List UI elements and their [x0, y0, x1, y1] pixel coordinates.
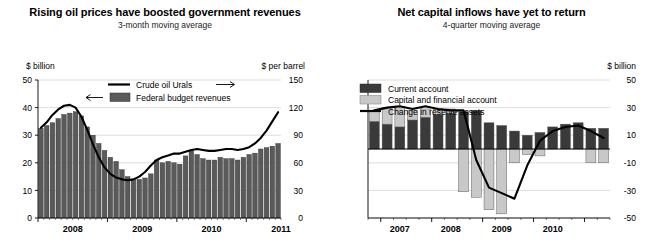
bar: [50, 123, 55, 218]
bar: [270, 146, 275, 218]
bar: [235, 160, 240, 218]
bar-current-account: [459, 112, 469, 149]
legend-label-crude-oil-urals: Crude oil Urals: [136, 80, 192, 90]
right-chart-svg: -50-30-10103050$ billion2007200820092010…: [330, 32, 653, 246]
bar-current-account: [510, 131, 520, 149]
bar: [218, 157, 223, 218]
bar: [160, 163, 165, 218]
bar-current-account: [484, 123, 494, 149]
x-tick-label: 2008: [63, 224, 83, 234]
right-chart-legend: Current accountCapital and financial acc…: [360, 84, 497, 117]
chart-panel-left: Rising oil prices have boosted governmen…: [0, 0, 330, 246]
y-tick-label-left: 30: [23, 130, 33, 140]
bar-capital-financial-account: [497, 149, 507, 214]
y-tick-label-right: 50: [627, 75, 637, 85]
bar-current-account: [420, 117, 430, 149]
x-tick-label: 2009: [132, 224, 152, 234]
y-axis-unit-right: $ billion: [607, 61, 636, 71]
y-tick-label-left: 50: [23, 75, 33, 85]
bar: [114, 161, 119, 218]
right-chart-subtitle: 4-quarter moving average: [330, 20, 653, 30]
legend-label-capital-and-financial-account: Capital and financial account: [388, 95, 497, 105]
bar: [253, 153, 258, 218]
bar-current-account: [408, 120, 418, 149]
y-tick-label-left: 10: [23, 186, 33, 196]
bar: [79, 116, 84, 218]
y-tick-label-left: 0: [27, 213, 32, 223]
legend-label-federal-budget-revenues: Federal budget revenues: [136, 93, 231, 103]
bar: [224, 159, 229, 218]
bar-current-account: [446, 113, 456, 149]
right-plot-group: -50-30-10103050$ billion2007200820092010…: [360, 61, 636, 234]
bar-current-account: [522, 135, 532, 149]
bar-current-account: [433, 115, 443, 150]
y-tick-label-right: -10: [624, 158, 637, 168]
bar: [206, 160, 211, 218]
bar-capital-financial-account: [599, 149, 609, 163]
bar: [85, 127, 90, 218]
bar: [189, 150, 194, 218]
bar: [149, 174, 154, 218]
bar: [137, 179, 142, 218]
bar: [102, 150, 107, 218]
x-tick-label: 2010: [202, 224, 222, 234]
x-tick-label: 2008: [441, 224, 461, 234]
bar: [241, 157, 246, 218]
legend-label-change-in-reserve-assets: Change in reserve assets: [388, 107, 484, 117]
bar: [44, 126, 49, 218]
y-tick-label-right: 150: [289, 75, 303, 85]
bar: [62, 115, 67, 219]
legend-label-current-account: Current account: [388, 84, 449, 94]
bar: [154, 160, 159, 218]
bar: [125, 177, 130, 218]
bar: [108, 157, 113, 218]
bar: [56, 119, 61, 218]
bar-current-account: [395, 127, 405, 149]
bar-capital-financial-account: [510, 149, 520, 163]
left-chart-plot: 010203040500306090120150$ billion$ per b…: [0, 32, 330, 246]
bar: [177, 164, 182, 218]
y-axis-unit-right: $ per barrel: [262, 61, 306, 71]
bar-current-account: [382, 124, 392, 149]
left-chart-subtitle: 3-month moving average: [0, 20, 330, 30]
left-chart-svg: 010203040500306090120150$ billion$ per b…: [0, 32, 330, 246]
bar: [230, 159, 235, 218]
bar-capital-financial-account: [522, 149, 532, 155]
chart-panel-right: Net capital inflows have yet to return 4…: [330, 0, 653, 246]
left-chart-title: Rising oil prices have boosted governmen…: [0, 6, 330, 19]
legend-swatch-current-account: [360, 84, 381, 93]
y-tick-label-right: 30: [627, 103, 637, 113]
y-tick-label-right: 10: [627, 130, 637, 140]
y-tick-label-right: -50: [624, 213, 637, 223]
y-tick-label-left: 20: [23, 158, 33, 168]
bar: [195, 155, 200, 218]
bar: [201, 159, 206, 218]
bar: [39, 128, 44, 218]
x-tick-label: 2011: [271, 224, 291, 234]
bar: [258, 149, 263, 218]
left-plot-group: 010203040500306090120150$ billion$ per b…: [23, 61, 306, 234]
y-tick-label-left: 40: [23, 103, 33, 113]
bar-capital-financial-account: [459, 149, 469, 192]
bar: [166, 161, 171, 218]
x-tick-label: 2009: [492, 224, 512, 234]
y-tick-label-right: 0: [298, 213, 303, 223]
legend-bar-swatch: [110, 93, 130, 102]
bar: [73, 112, 78, 218]
left-chart-legend: Crude oil UralsFederal budget revenues: [86, 80, 235, 103]
bar: [68, 113, 73, 218]
bar-current-account: [369, 121, 379, 149]
bar: [276, 143, 281, 218]
bar-capital-financial-account: [586, 149, 596, 163]
stacked-bar-series: [369, 106, 608, 214]
bar-capital-financial-account: [535, 149, 545, 156]
bar-current-account: [497, 126, 507, 149]
bar: [143, 178, 148, 218]
y-tick-label-right: 60: [294, 158, 304, 168]
x-tick-label: 2007: [390, 224, 410, 234]
bar-series-federal-budget-revenues: [39, 112, 281, 218]
bar: [120, 170, 125, 218]
bar: [247, 155, 252, 218]
figure-pair: Rising oil prices have boosted governmen…: [0, 0, 653, 246]
y-tick-label-right: -30: [624, 186, 637, 196]
